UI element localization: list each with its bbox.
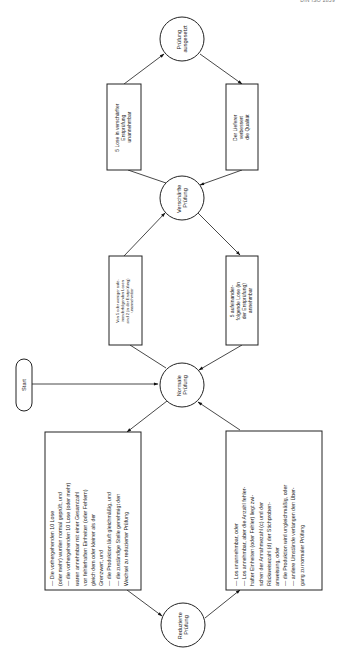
cond-reduced-to-normal: — Los unannehmbar, oder — Los annehmbar,… (226, 431, 322, 590)
svg-text:Der Lieferer verbessert: Der Lieferer verbessert die Qualität (232, 113, 250, 141)
edge-tightened-to-cond-normal (198, 213, 240, 255)
cond-tightened-to-suspended: 5 Lose in verschärfter Erstprüfung unann… (107, 84, 141, 170)
edge-cond-back-to-normal (198, 402, 240, 430)
node-normal: Normale Prüfung (160, 363, 204, 407)
edge-normal-to-cond-tight (130, 345, 166, 368)
edge-cond-susp-to-suspended (124, 54, 164, 84)
edge-cond-improve-to-tightened (200, 170, 242, 185)
cond-tightened-to-normal: 5 aufeinander- folgende Lose (in der Ers… (226, 256, 258, 345)
edge-cond-normal-to-normal (199, 345, 242, 370)
edge-cond-tight-to-tightened (124, 213, 165, 256)
edge-reduced-to-cond-normal (205, 590, 240, 618)
node-tightened: Verschärfte Prüfung (160, 176, 204, 220)
svg-text:Prüfung ausgesetzt: Prüfung ausgesetzt (176, 25, 189, 52)
switching-rules-diagram: Prüfung ausgesetzt Verschärfte Prüfung N… (0, 0, 337, 660)
node-reduced: Reduzierte Prüfung (161, 603, 205, 647)
cond-normal-to-tightened: Von 5 oder weniger aufe- inanderfolgende… (109, 256, 142, 345)
cond-suspended-to-tightened: Der Lieferer verbessert die Qualität (226, 84, 258, 170)
node-suspended: Prüfung ausgesetzt (160, 17, 204, 61)
svg-text:Normale Prüfung: Normale Prüfung (176, 374, 189, 397)
edge-suspended-to-cond-tight (200, 54, 242, 84)
edge-cond-reduced-to-reduced (127, 590, 162, 616)
edge-normal-to-cond-reduced (127, 401, 167, 432)
svg-text:Start: Start (21, 379, 27, 391)
edge-tightened-to-cond-susp (128, 170, 166, 183)
node-start: Start (16, 359, 32, 411)
cond-normal-to-reduced: — Die vorhergehenden 10 Lose (oder mehr)… (45, 432, 141, 590)
